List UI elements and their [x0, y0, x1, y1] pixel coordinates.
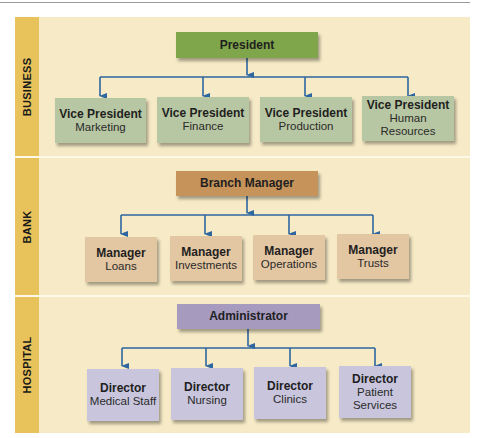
node-subtitle: Marketing: [75, 121, 126, 134]
node-title: Vice President: [367, 99, 450, 112]
node-title: Director: [267, 380, 313, 393]
node-title: Director: [352, 373, 398, 386]
org-node-vp-human-resources: Vice President Human Resources: [362, 96, 454, 141]
org-node-manager-investments: Manager Investments: [170, 236, 242, 281]
org-node-director-patient-services: Director Patient Services: [339, 366, 411, 418]
org-node-vp-finance: Vice President Finance: [157, 97, 249, 143]
node-subtitle: Clinics: [273, 393, 307, 406]
node-subtitle: Production: [279, 120, 334, 133]
node-subtitle: Medical Staff: [90, 395, 156, 408]
org-node-administrator: Administrator: [177, 304, 320, 329]
node-subtitle: Trusts: [357, 257, 389, 270]
node-subtitle: Loans: [105, 260, 136, 273]
node-subtitle: Nursing: [187, 394, 227, 407]
node-title: Manager: [181, 246, 230, 259]
org-node-vp-production: Vice President Production: [260, 97, 352, 142]
node-title: Vice President: [59, 108, 142, 121]
org-node-president: President: [176, 32, 318, 58]
node-title: Manager: [264, 245, 313, 258]
org-node-manager-operations: Manager Operations: [253, 235, 325, 280]
node-subtitle: Patient Services: [353, 386, 397, 412]
node-title: Manager: [96, 247, 145, 260]
node-title: Vice President: [265, 107, 348, 120]
org-node-director-nursing: Director Nursing: [171, 368, 243, 420]
org-node-manager-trusts: Manager Trusts: [337, 234, 409, 279]
org-node-director-clinics: Director Clinics: [254, 367, 326, 419]
org-node-branch-manager: Branch Manager: [176, 171, 318, 196]
node-subtitle: Operations: [261, 258, 317, 271]
node-subtitle: Investments: [175, 259, 237, 272]
org-node-manager-loans: Manager Loans: [85, 237, 157, 282]
node-title: Director: [184, 381, 230, 394]
node-subtitle: Human Resources: [362, 112, 454, 138]
node-title: Manager: [348, 244, 397, 257]
org-node-director-medical-staff: Director Medical Staff: [87, 369, 159, 421]
org-node-vp-marketing: Vice President Marketing: [55, 98, 146, 143]
node-title: Vice President: [162, 107, 245, 120]
node-title: Director: [100, 382, 146, 395]
node-subtitle: Finance: [183, 120, 224, 133]
